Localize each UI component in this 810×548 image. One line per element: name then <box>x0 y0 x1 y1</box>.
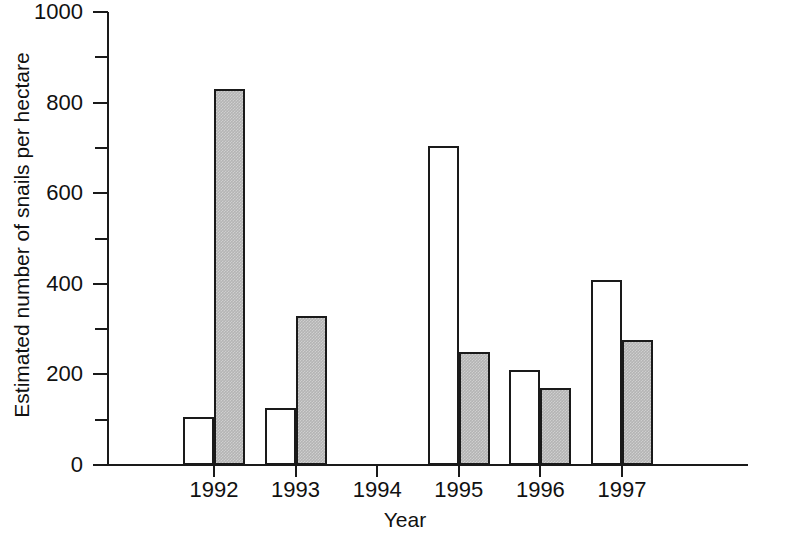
y-tick-label-text: 400 <box>46 273 83 295</box>
x-tick <box>539 466 541 477</box>
x-tick <box>295 466 297 477</box>
bar-gray-1995 <box>459 352 490 465</box>
x-axis-title: Year <box>0 508 810 532</box>
y-tick-minor <box>95 328 108 330</box>
y-tick-label-text: 1000 <box>34 1 83 23</box>
x-tick <box>213 466 215 477</box>
y-tick-minor <box>95 419 108 421</box>
plot-area: 02004006008001000 1992199319941995199619… <box>0 0 810 548</box>
y-tick-minor <box>95 147 108 149</box>
x-tick-label: 1995 <box>434 479 483 501</box>
y-tick-major <box>93 11 108 13</box>
x-tick-label: 1996 <box>516 479 565 501</box>
bar-gray-1993 <box>296 316 327 465</box>
bar-white-1997 <box>591 280 622 465</box>
x-tick-label: 1994 <box>353 479 402 501</box>
bar-chart: Estimated number of snails per hectare 0… <box>0 0 810 548</box>
y-tick-major <box>93 102 108 104</box>
bar-white-1992 <box>183 417 214 465</box>
y-tick-minor <box>95 238 108 240</box>
y-tick-minor <box>95 56 108 58</box>
y-tick-major <box>93 464 108 466</box>
bar-white-1996 <box>509 370 540 465</box>
x-tick-label: 1993 <box>271 479 320 501</box>
y-tick-label-text: 200 <box>46 363 83 385</box>
y-tick-label-text: 600 <box>46 182 83 204</box>
bar-gray-1992 <box>214 89 245 465</box>
x-tick <box>621 466 623 477</box>
bar-gray-1997 <box>622 340 653 465</box>
x-tick <box>458 466 460 477</box>
bar-gray-1996 <box>540 388 571 465</box>
y-tick-major <box>93 283 108 285</box>
x-tick-label: 1997 <box>598 479 647 501</box>
y-tick-major <box>93 192 108 194</box>
y-tick-label-text: 0 <box>71 454 83 476</box>
bar-white-1993 <box>265 408 296 465</box>
y-tick-major <box>93 373 108 375</box>
x-tick-label: 1992 <box>190 479 239 501</box>
bar-white-1995 <box>428 146 459 465</box>
x-tick <box>376 466 378 477</box>
y-tick-label-text: 800 <box>46 92 83 114</box>
